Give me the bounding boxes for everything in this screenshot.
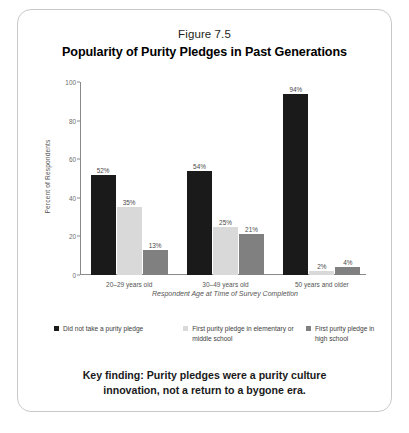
legend-item-label: First purity pledge in elementary or mid…: [192, 324, 306, 344]
bar: [143, 250, 168, 275]
chart-axes: 020406080100 52%35%13%20–29 years old54%…: [80, 82, 370, 275]
y-axis-tick-label: 0: [72, 272, 76, 279]
y-axis-tick-label: 60: [69, 156, 76, 163]
bar-value-label: 52%: [91, 167, 116, 174]
y-axis-tick-mark: [77, 82, 80, 83]
bar: [309, 271, 334, 275]
legend-item-label: First purity pledge in high school: [315, 324, 377, 344]
y-axis-tick-mark: [77, 120, 80, 121]
bar-column: 2%: [309, 82, 334, 275]
figure-number: Figure 7.5: [18, 28, 391, 40]
legend-item: First purity pledge in high school: [306, 324, 377, 344]
bar-group-bars: 52%35%13%: [81, 82, 177, 275]
x-axis-label: Respondent Age at Time of Survey Complet…: [80, 290, 370, 297]
bar-value-label: 25%: [213, 219, 238, 226]
y-axis-tick-mark: [77, 159, 80, 160]
bar: [117, 207, 142, 275]
chart-legend: Did not take a purity pledgeFirst purity…: [54, 324, 377, 344]
bar-value-label: 4%: [335, 259, 360, 266]
bar: [283, 94, 308, 275]
y-axis-tick-label: 100: [65, 79, 76, 86]
legend-item: First purity pledge in elementary or mid…: [183, 324, 306, 344]
legend-item-label: Did not take a purity pledge: [63, 324, 143, 334]
bar-group-bars: 54%25%21%: [177, 82, 273, 275]
bar-value-label: 54%: [187, 163, 212, 170]
bar-column: 4%: [335, 82, 360, 275]
bar-group: 54%25%21%30–49 years old: [177, 82, 273, 275]
bar-value-label: 35%: [117, 199, 142, 206]
bar-column: 35%: [117, 82, 142, 275]
bar-group-bars: 94%2%4%: [274, 82, 370, 275]
bar-value-label: 2%: [309, 263, 334, 270]
bar-column: 21%: [239, 82, 264, 275]
bar-column: 13%: [143, 82, 168, 275]
bar-value-label: 21%: [239, 226, 264, 233]
figure-card: Figure 7.5 Popularity of Purity Pledges …: [17, 9, 392, 412]
bar-column: 52%: [91, 82, 116, 275]
y-axis-tick-label: 80: [69, 117, 76, 124]
bar: [187, 171, 212, 275]
y-axis-label: Percent of Respondents: [40, 78, 54, 275]
bar: [91, 175, 116, 275]
bar: [335, 267, 360, 275]
legend-item: Did not take a purity pledge: [54, 324, 183, 334]
bar: [213, 227, 238, 275]
bar-column: 94%: [283, 82, 308, 275]
y-axis-tick-label: 40: [69, 194, 76, 201]
bar-group: 94%2%4%50 years and older: [274, 82, 370, 275]
chart-plot-area: Percent of Respondents 020406080100 52%3…: [44, 78, 370, 300]
bar-groups: 52%35%13%20–29 years old54%25%21%30–49 y…: [81, 82, 370, 275]
bar-value-label: 13%: [143, 242, 168, 249]
key-finding-text: Key finding: Purity pledges were a purit…: [66, 368, 343, 398]
legend-swatch-icon: [183, 326, 188, 331]
figure-title: Popularity of Purity Pledges in Past Gen…: [18, 45, 391, 59]
bar-group: 52%35%13%20–29 years old: [81, 82, 177, 275]
y-axis-tick-label: 20: [69, 233, 76, 240]
bar-column: 25%: [213, 82, 238, 275]
x-axis-group-label: 50 years and older: [262, 281, 382, 288]
bar: [239, 234, 264, 275]
y-axis-tick-mark: [77, 197, 80, 198]
y-axis-tick-mark: [77, 275, 80, 276]
legend-swatch-icon: [54, 326, 59, 331]
y-axis-label-text: Percent of Respondents: [44, 139, 51, 213]
bar-column: 54%: [187, 82, 212, 275]
legend-swatch-icon: [306, 326, 311, 331]
y-axis-tick-mark: [77, 236, 80, 237]
bar-value-label: 94%: [283, 86, 308, 93]
